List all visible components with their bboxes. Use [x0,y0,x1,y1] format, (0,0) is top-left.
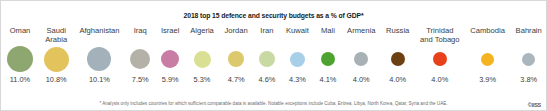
bubble-slot [194,45,211,73]
country-column[interactable]: Saudi Arabia10.8% [44,27,69,84]
value-bubble[interactable] [7,46,33,72]
country-label: Afghanistan [79,27,119,45]
country-value: 7.5% [132,73,149,84]
country-value: 4.0% [353,73,370,84]
country-value: 4.3% [289,73,306,84]
country-label: Armenia [347,27,375,45]
country-value: 5.3% [194,73,211,84]
footnote-row: * Analysis only includes countries for w… [1,101,546,107]
bubble-slot [290,45,305,73]
country-value: 3.8% [520,73,537,84]
footnote-text: * Analysis only includes countries for w… [99,101,447,107]
country-column[interactable]: Cambodia3.9% [470,27,505,84]
country-column[interactable]: Iran4.6% [258,27,275,84]
bubble-slot [161,45,179,73]
value-bubble[interactable] [130,49,150,69]
bubble-slot [391,45,405,73]
country-label: Iraq [134,27,147,45]
value-bubble[interactable] [228,51,244,67]
country-value: 4.7% [228,73,245,84]
bubble-slot [44,45,69,73]
country-value: 4.6% [258,73,275,84]
country-label: Cambodia [470,27,505,45]
chart-title: 2018 top 15 defence and security budgets… [1,1,546,22]
country-column[interactable]: Russia4.0% [386,27,409,84]
country-label: Jordan [225,27,248,45]
country-value: 3.9% [479,73,496,84]
country-label: Trinidad and Tobago [420,27,460,45]
country-column[interactable]: Kuwait4.3% [286,27,309,84]
copyright-credit: ©IISS [528,102,541,108]
country-column[interactable]: Oman11.0% [7,27,33,84]
value-bubble[interactable] [391,52,405,66]
country-column[interactable]: Iraq7.5% [130,27,150,84]
country-label: Israel [161,27,180,45]
bubble-slot [130,45,150,73]
value-bubble[interactable] [259,51,275,67]
country-column[interactable]: Trinidad and Tobago4.0% [420,27,460,84]
bubble-slot [481,45,494,73]
value-bubble[interactable] [194,51,211,68]
country-columns: Oman11.0%Saudi Arabia10.8%Afghanistan10.… [1,22,547,84]
country-label: Saudi Arabia [45,27,67,45]
value-bubble[interactable] [44,47,69,72]
country-value: 10.1% [89,73,110,84]
country-label: Mali [321,27,335,45]
value-bubble[interactable] [161,50,179,68]
value-bubble[interactable] [354,52,368,66]
country-column[interactable]: Jordan4.7% [225,27,248,84]
value-bubble[interactable] [87,47,111,71]
bubble-slot [321,45,335,73]
value-bubble[interactable] [481,53,494,66]
country-label: Bahrain [516,27,542,45]
country-column[interactable]: Israel5.9% [161,27,180,84]
bubble-slot [7,45,33,73]
bubble-slot [259,45,275,73]
bubble-slot [522,45,535,73]
country-label: Kuwait [286,27,309,45]
bubble-slot [433,45,447,73]
country-column[interactable]: Bahrain3.8% [516,27,542,84]
value-bubble[interactable] [321,52,335,66]
country-label: Russia [386,27,409,45]
value-bubble[interactable] [522,53,535,66]
country-value: 10.8% [46,73,67,84]
country-column[interactable]: Armenia4.0% [347,27,375,84]
chart-card: 2018 top 15 defence and security budgets… [0,0,547,111]
bubble-slot [354,45,368,73]
country-label: Algeria [190,27,214,45]
country-column[interactable]: Afghanistan10.1% [79,27,119,84]
country-column[interactable]: Algeria5.3% [190,27,214,84]
country-value: 5.9% [162,73,179,84]
bubble-slot [228,45,244,73]
country-column[interactable]: Mali4.1% [320,27,337,84]
country-value: 4.0% [431,73,448,84]
value-bubble[interactable] [290,52,305,67]
country-value: 11.0% [10,73,30,84]
country-value: 4.1% [320,73,337,84]
country-label: Iran [260,27,273,45]
country-value: 4.0% [389,73,406,84]
value-bubble[interactable] [433,52,447,66]
country-label: Oman [10,27,31,45]
bubble-slot [87,45,111,73]
